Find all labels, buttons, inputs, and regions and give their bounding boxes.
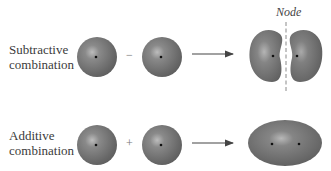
nucleus-dot bbox=[95, 144, 98, 147]
nucleus-dot bbox=[298, 143, 301, 146]
bonding-ellipsoid bbox=[248, 120, 322, 166]
label-line: combination bbox=[9, 143, 74, 158]
additive-label: Additive combination bbox=[9, 128, 74, 158]
left-lobe bbox=[249, 30, 282, 82]
minus-operator: − bbox=[126, 48, 133, 63]
additive-row bbox=[77, 120, 322, 166]
nucleus-dot bbox=[160, 144, 163, 147]
label-line: combination bbox=[9, 57, 74, 72]
nucleus-dot bbox=[160, 56, 163, 59]
nucleus-dot bbox=[95, 56, 98, 59]
label-line: Additive bbox=[9, 128, 74, 143]
label-line: Subtractive bbox=[9, 42, 74, 57]
right-lobe bbox=[290, 30, 323, 82]
nucleus-dot bbox=[272, 55, 275, 58]
subtractive-row bbox=[77, 22, 322, 92]
subtractive-label: Subtractive combination bbox=[9, 42, 74, 72]
plus-operator: + bbox=[126, 136, 133, 151]
nucleus-dot bbox=[271, 143, 274, 146]
node-label: Node bbox=[276, 5, 301, 20]
nucleus-dot bbox=[296, 55, 299, 58]
